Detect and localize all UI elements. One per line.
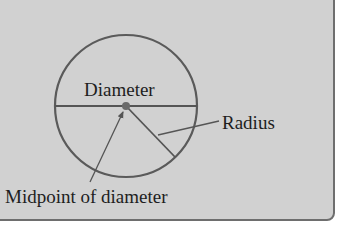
- diameter-label: Diameter: [84, 79, 155, 100]
- radius-leader-line: [158, 121, 219, 135]
- midpoint-arrow: [90, 112, 123, 182]
- radius-line: [126, 106, 175, 157]
- circle-diagram: Diameter Radius Midpoint of diameter: [0, 0, 348, 231]
- midpoint-dot: [122, 102, 130, 110]
- midpoint-label: Midpoint of diameter: [5, 186, 168, 207]
- radius-label: Radius: [222, 112, 275, 133]
